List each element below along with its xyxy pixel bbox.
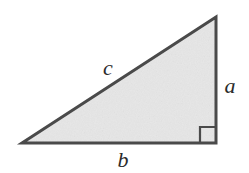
- hypotenuse-label: c: [103, 57, 113, 79]
- right-triangle-figure: c a b: [0, 0, 249, 173]
- vertical-leg-label: a: [225, 75, 236, 97]
- horizontal-leg-label: b: [118, 149, 129, 171]
